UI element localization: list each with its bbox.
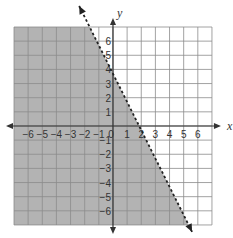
y-tick-label: 1 bbox=[105, 107, 111, 118]
x-tick-label: −5 bbox=[37, 129, 49, 140]
y-tick-label: −1 bbox=[100, 135, 112, 146]
x-tick-label: −6 bbox=[22, 129, 34, 140]
x-tick-label: −2 bbox=[79, 129, 91, 140]
y-axis-down-arrow-icon bbox=[110, 227, 116, 234]
x-axis-label: x bbox=[226, 119, 233, 133]
x-tick-label: 5 bbox=[181, 129, 187, 140]
x-tick-label: 2 bbox=[138, 129, 144, 140]
x-tick-label: −4 bbox=[51, 129, 63, 140]
x-tick-label: 4 bbox=[167, 129, 173, 140]
y-tick-label: 2 bbox=[105, 93, 111, 104]
y-tick-label: −5 bbox=[100, 192, 112, 203]
y-tick-label: −2 bbox=[100, 149, 112, 160]
x-tick-label: 1 bbox=[124, 129, 130, 140]
x-tick-label: 6 bbox=[195, 129, 201, 140]
chart-area: xy−6−5−4−3−2−10123456654321−1−2−3−4−5−6 bbox=[6, 6, 233, 234]
y-tick-label: −6 bbox=[100, 206, 112, 217]
y-tick-label: 3 bbox=[105, 79, 111, 90]
x-tick-label: −3 bbox=[65, 129, 77, 140]
y-axis-label: y bbox=[116, 6, 123, 20]
y-tick-label: 6 bbox=[105, 36, 111, 47]
x-axis-right-arrow-icon bbox=[214, 123, 221, 129]
x-tick-label: 3 bbox=[153, 129, 159, 140]
y-tick-label: −3 bbox=[100, 163, 112, 174]
y-axis-up-arrow-icon bbox=[110, 18, 116, 25]
boundary-top-arrow-icon bbox=[79, 6, 86, 15]
y-tick-label: −4 bbox=[100, 178, 112, 189]
inequality-graph: xy−6−5−4−3−2−10123456654321−1−2−3−4−5−6 bbox=[0, 0, 233, 238]
x-axis-left-arrow-icon bbox=[6, 123, 13, 129]
